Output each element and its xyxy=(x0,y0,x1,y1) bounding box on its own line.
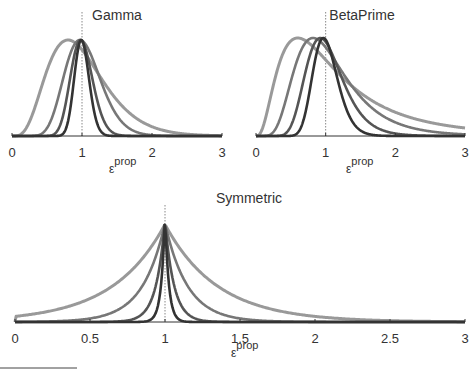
series-line-wide xyxy=(12,40,222,136)
series-line-wide xyxy=(256,38,465,136)
series-line-wide xyxy=(15,225,465,322)
series-line-widest xyxy=(15,225,465,322)
x-tick-label: 0 xyxy=(8,145,15,160)
series-line-narrow xyxy=(256,38,465,136)
x-tick-label: 1 xyxy=(161,331,168,346)
series-line-narrow xyxy=(12,40,222,136)
x-tick-label: 3 xyxy=(461,331,468,346)
panel-symmetric: Symmetric 00.511.522.53 εprop xyxy=(11,190,468,360)
x-axis-label: εprop xyxy=(346,155,373,176)
series-line-narrowest xyxy=(12,40,222,136)
series-line-narrowest xyxy=(15,225,465,322)
x-tick-label: 1 xyxy=(322,145,329,160)
series-line-widest xyxy=(256,38,465,136)
figure: Gamma 0123 εprop BetaPrime 0123 εprop Sy… xyxy=(0,0,475,371)
x-tick-label: 0 xyxy=(11,331,18,346)
series-line-widest xyxy=(12,40,222,136)
panel-betaprime: BetaPrime 0123 εprop xyxy=(252,7,468,176)
panel-title: Gamma xyxy=(92,7,142,23)
x-tick-label: 0 xyxy=(252,145,259,160)
x-axis-label-superscript: prop xyxy=(351,155,373,167)
x-tick-label: 2 xyxy=(311,331,318,346)
x-axis-label-superscript: prop xyxy=(236,339,258,351)
series-line-narrowest xyxy=(256,38,465,136)
x-tick-label: 0.5 xyxy=(81,331,99,346)
x-axis-label-superscript: prop xyxy=(114,155,136,167)
x-tick-label: 1 xyxy=(78,145,85,160)
panel-title: Symmetric xyxy=(216,190,282,206)
panel-gamma: Gamma 0123 εprop xyxy=(8,7,225,176)
panel-title: BetaPrime xyxy=(329,7,395,23)
x-tick-label: 2 xyxy=(392,145,399,160)
x-tick-label: 2 xyxy=(148,145,155,160)
x-tick-label: 3 xyxy=(218,145,225,160)
x-tick-label: 2.5 xyxy=(381,331,399,346)
series-line-narrow xyxy=(15,225,465,322)
x-axis-label: εprop xyxy=(109,155,136,176)
x-tick-label: 3 xyxy=(461,145,468,160)
